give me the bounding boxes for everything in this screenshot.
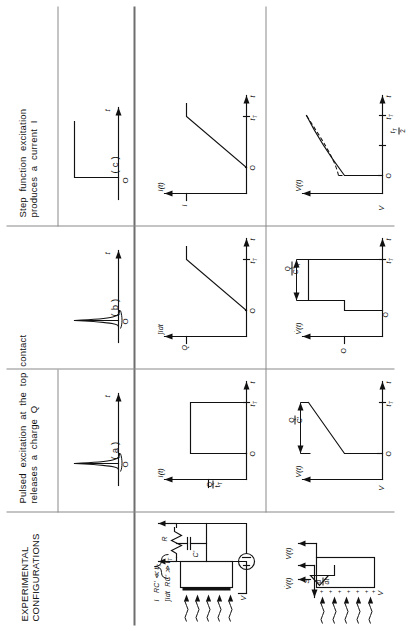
chart-b-vdot-xlabel: t — [384, 238, 391, 240]
divider-main-horizontal — [133, 6, 135, 625]
chart-a-current-xtick-0: O — [248, 450, 255, 456]
config-bottom-derivative-label: ddt — [308, 577, 336, 601]
header-step-line1: Step function excitation — [16, 67, 27, 217]
header-experimental-line2: CONFIGURATIONS — [29, 516, 40, 621]
chart-c-voltage-xtick-0: O — [384, 172, 391, 178]
chart-b-vdot-ylabel: V̇(t) — [294, 322, 301, 334]
chart-a-current-yvalue-num: Q — [205, 480, 213, 488]
chart-b-charge-xtick-0: O — [248, 307, 255, 313]
chart-a-voltage: V(t) V QC' O tT t — [282, 373, 392, 501]
chart-a-voltage-annotation: QC' — [280, 415, 309, 441]
config-bottom-bias-label: V — [376, 590, 383, 595]
header-experimental-line1: EXPERIMENTAL — [18, 516, 29, 621]
header-pulsed-line1: Pulsed excitation at the top contact — [16, 353, 27, 503]
divider-vertical-b-c — [6, 225, 394, 226]
divider-vertical-a-b — [6, 368, 394, 369]
column-label-c: ( c ) — [108, 156, 119, 173]
excitation-c: O t — [62, 97, 128, 207]
config-top-capacitor-label: C' — [191, 550, 198, 557]
excitation-a-t: t — [102, 395, 111, 397]
header-step: Step function excitation produces a curr… — [16, 67, 38, 217]
divider-header-ab — [57, 369, 58, 512]
chart-a-current-xlabel: t — [248, 381, 255, 383]
chart-b-vdot-annotation-den: C'tT — [292, 261, 301, 274]
column-label-b: ( b ) — [108, 298, 119, 316]
chart-a-voltage-xtick-1: tT — [384, 401, 393, 406]
header-pulsed: Pulsed excitation at the top contact rel… — [16, 353, 38, 503]
chart-c-current: I(t) I O tT t — [150, 87, 256, 215]
chart-b-charge-xlabel: t — [248, 238, 255, 240]
svg-text:+: + — [362, 589, 368, 593]
chart-c-voltage: V(t) V O tT2 tT t — [282, 87, 392, 215]
chart-c-voltage-ylabel: V(t) — [294, 179, 301, 191]
config-circuit-bottom: +++ +++ + — [282, 511, 394, 627]
chart-c-current-xtick-0: O — [248, 164, 255, 170]
chart-a-voltage-annotation-den: C' — [295, 415, 302, 424]
chart-b-charge-xtick-1: tT — [248, 258, 257, 263]
excitation-a-origin: O — [120, 461, 129, 467]
chart-c-voltage-xtick-2: tT — [384, 114, 393, 119]
chart-b-vdot: V̇(t) O QC'tT O tT t — [282, 230, 392, 358]
chart-b-charge-ylabel: ∫Idt — [156, 323, 163, 334]
chart-c-current-ylabel: I(t) — [156, 182, 163, 191]
svg-text:+: + — [353, 589, 359, 593]
config-bottom-output-v: V(t) — [284, 547, 291, 559]
header-step-line2: produces a current I — [27, 67, 38, 217]
chart-c-voltage-xlabel: t — [384, 95, 391, 97]
config-top-brace-line2: ∫Idt RC' ≫ tT — [163, 557, 172, 601]
excitation-c-t: t — [102, 109, 111, 111]
config-top-brace-line1: I RC' ≪ tT — [152, 563, 161, 601]
config-bottom-output-vdot: V̇(t) — [284, 577, 291, 589]
divider-row-graphs — [265, 6, 266, 512]
chart-a-voltage-xtick-0: O — [384, 450, 391, 456]
chart-a-voltage-yvalue: V — [377, 485, 384, 490]
chart-c-voltage-yvalue: V — [377, 205, 384, 210]
chart-c-current-yvalue: I — [180, 204, 187, 206]
chart-c-current-xtick-1: tT — [248, 115, 257, 120]
chart-a-current-xtick-1: tT — [248, 401, 257, 406]
excitation-b-t: t — [102, 252, 111, 254]
chart-a-voltage-ylabel: V(t) — [294, 465, 301, 477]
excitation-b-origin: O — [120, 318, 129, 324]
chart-b-vdot-annotation: QC'tT — [277, 261, 307, 292]
chart-a-voltage-annotation-num: Q — [287, 415, 295, 424]
chart-b-vdot-yvalue: O — [381, 311, 388, 317]
chart-a-voltage-xlabel: t — [384, 381, 391, 383]
svg-text:+: + — [344, 589, 350, 593]
header-pulsed-line2: releases a charge Q — [27, 353, 38, 503]
chart-a-current-ylabel: I(t) — [156, 468, 163, 477]
chart-c-voltage-xtick-1: tT2 — [382, 127, 410, 151]
column-label-a: ( a ) — [108, 441, 119, 459]
chart-c-current-xlabel: t — [248, 95, 255, 97]
chart-b-vdot-xtick-1: tT — [384, 258, 393, 263]
excitation-b: O t — [62, 240, 128, 350]
chart-a-current: I(t) QtT O tT t — [150, 373, 256, 501]
excitation-a: O t — [62, 383, 128, 493]
chart-b-vdot-annotation-num: Q — [284, 261, 292, 274]
chart-a-current-yvalue: QtT — [198, 480, 229, 505]
divider-header-c — [57, 6, 58, 226]
svg-text:+: + — [369, 589, 375, 593]
chart-b-vdot-xtick-0: O — [339, 347, 346, 353]
excitation-c-origin: O — [120, 177, 129, 183]
config-top-bias-label: V — [239, 595, 246, 600]
chart-b-charge: ∫Idt Q O tT t — [150, 230, 256, 358]
header-experimental: EXPERIMENTAL CONFIGURATIONS — [18, 516, 40, 621]
chart-b-charge-yvalue: Q — [180, 344, 187, 350]
